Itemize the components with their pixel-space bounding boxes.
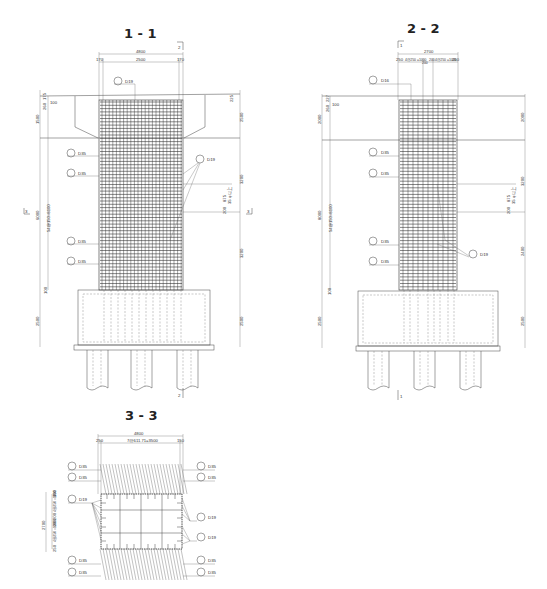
drawing-canvas: 1 - 1 2 4800 170 2500 170 bbox=[0, 0, 547, 589]
dim-center-b: 200 bbox=[429, 58, 435, 62]
svg-text:1: 1 bbox=[400, 394, 403, 399]
svg-text:D19: D19 bbox=[207, 157, 216, 162]
dim-left-cover: 170 bbox=[96, 57, 104, 62]
svg-text:D19: D19 bbox=[79, 497, 88, 502]
dim-cap-height: 2000 bbox=[317, 114, 322, 124]
dim-bar-spacing: 54@150=8100 bbox=[46, 204, 51, 232]
dim-top-small: 225 bbox=[229, 94, 234, 102]
bar-callout: D35 bbox=[67, 169, 99, 177]
piles bbox=[87, 350, 198, 390]
section-title: 1 - 1 bbox=[124, 26, 157, 41]
bar-callout: D35 bbox=[183, 462, 217, 470]
dim-footing: 2500 bbox=[317, 316, 322, 326]
svg-text:1: 1 bbox=[400, 43, 403, 48]
svg-text:D35: D35 bbox=[381, 259, 390, 264]
svg-text:D35: D35 bbox=[381, 239, 390, 244]
svg-text:D16: D16 bbox=[381, 78, 390, 83]
dim-mid: 3200 bbox=[239, 174, 244, 184]
dim-footing: 2500 bbox=[35, 316, 40, 326]
note-a: 200 bbox=[506, 206, 511, 214]
dim-cover-b: 100 bbox=[332, 102, 340, 107]
svg-text:D35: D35 bbox=[79, 570, 88, 575]
svg-text:2: 2 bbox=[178, 45, 181, 50]
rebar-grid bbox=[400, 100, 456, 343]
bar-callout: D19 bbox=[182, 526, 217, 544]
bar-callout: D19 bbox=[182, 498, 217, 521]
dim-overall: 2700 bbox=[424, 49, 434, 54]
section-2-2: 2 - 2 1 2700 250 4@250 =1000 200 200 4@2… bbox=[317, 21, 525, 400]
dim-overall: 4800 bbox=[136, 49, 146, 54]
bar-callout: D35 bbox=[68, 462, 101, 470]
dim-lower: 3200 bbox=[239, 248, 244, 258]
section-hooks bbox=[101, 494, 182, 549]
bar-callout: D35 bbox=[68, 556, 101, 564]
svg-text:2: 2 bbox=[178, 393, 181, 398]
piles bbox=[368, 351, 481, 390]
side-marker-left: 3 bbox=[24, 208, 30, 214]
svg-text:D19: D19 bbox=[208, 535, 217, 540]
dim-base-small: 100 bbox=[43, 286, 48, 294]
bar-callout: D35 bbox=[67, 257, 99, 265]
section-1-1: 1 - 1 2 4800 170 2500 170 bbox=[24, 26, 252, 398]
bar-callout: D35 bbox=[67, 149, 99, 157]
dim-cover-a: 260 bbox=[42, 102, 47, 110]
cut-marker-top: 1 bbox=[398, 41, 404, 48]
svg-text:D35: D35 bbox=[78, 171, 87, 176]
svg-text:D35: D35 bbox=[79, 558, 88, 563]
dim-total: 2700 bbox=[41, 520, 46, 530]
dim-e: 4@250 =1000 bbox=[53, 520, 57, 542]
dim-bar-spacing: 54@150=8100 bbox=[328, 204, 333, 232]
dim-right-cover: 170 bbox=[177, 57, 185, 62]
bar-callout: D35 bbox=[68, 568, 101, 576]
bar-callout: D35 bbox=[369, 237, 399, 245]
dim-left-cover: 250 bbox=[96, 438, 104, 443]
svg-text:D19: D19 bbox=[208, 515, 217, 520]
svg-text:D35: D35 bbox=[78, 259, 87, 264]
svg-text:D35: D35 bbox=[208, 558, 217, 563]
svg-text:3: 3 bbox=[247, 209, 250, 214]
dim-right-cover: 250 bbox=[452, 57, 460, 62]
dim-cover-b: 100 bbox=[50, 100, 58, 105]
note-c: 35 φ以上 bbox=[226, 187, 232, 204]
bar-callout: D19 bbox=[68, 495, 101, 540]
section-3-3: 3 - 3 4800 250 7@611.71=3500 150 2700 15… bbox=[41, 408, 217, 580]
section-title: 3 - 3 bbox=[125, 408, 158, 423]
bar-callout: D35 bbox=[183, 568, 217, 576]
section-title: 2 - 2 bbox=[407, 21, 440, 36]
svg-text:D35: D35 bbox=[208, 464, 217, 469]
dim-b: 4@250 =1000 bbox=[53, 490, 57, 512]
svg-text:D35: D35 bbox=[381, 171, 390, 176]
note-a: 200 bbox=[222, 206, 227, 214]
dim-cap-height: 1500 bbox=[35, 114, 40, 124]
bar-callout: D35 bbox=[67, 237, 99, 245]
svg-text:D35: D35 bbox=[79, 464, 88, 469]
dim-top-small: 175 bbox=[42, 92, 47, 100]
svg-text:D35: D35 bbox=[381, 150, 390, 155]
bar-callout: D35 bbox=[68, 473, 101, 481]
dim-f: 250 bbox=[52, 544, 57, 552]
side-marker-right: 3 bbox=[246, 208, 252, 214]
svg-text:D35: D35 bbox=[208, 475, 217, 480]
dim-lower: 2400 bbox=[520, 246, 525, 256]
bar-callout: D35 bbox=[183, 473, 217, 481]
dim-base-small: 100 bbox=[327, 287, 332, 295]
rebar-grid bbox=[100, 100, 182, 342]
dim-top-small: 227 bbox=[325, 94, 330, 102]
cut-marker-top: 2 bbox=[177, 42, 183, 50]
dim-cap: 2000 bbox=[520, 112, 525, 122]
dim-cap: 2500 bbox=[239, 112, 244, 122]
hatch-bottom bbox=[100, 549, 187, 580]
dim-footing-right: 2500 bbox=[520, 316, 525, 326]
dim-total: 8000 bbox=[317, 210, 322, 220]
svg-text:D35: D35 bbox=[79, 475, 88, 480]
bar-callout: D35 bbox=[369, 257, 399, 265]
bar-callout: D35 bbox=[369, 148, 399, 156]
bar-callout: D35 bbox=[183, 556, 217, 564]
svg-text:3: 3 bbox=[25, 209, 28, 214]
svg-text:D35: D35 bbox=[78, 151, 87, 156]
cut-marker-bottom: 2 bbox=[178, 388, 183, 398]
hatch-top bbox=[100, 464, 187, 494]
dim-inner: 2500 bbox=[136, 57, 146, 62]
dim-inner: 7@611.71=3500 bbox=[127, 438, 159, 443]
cut-marker-bottom: 1 bbox=[398, 390, 403, 400]
